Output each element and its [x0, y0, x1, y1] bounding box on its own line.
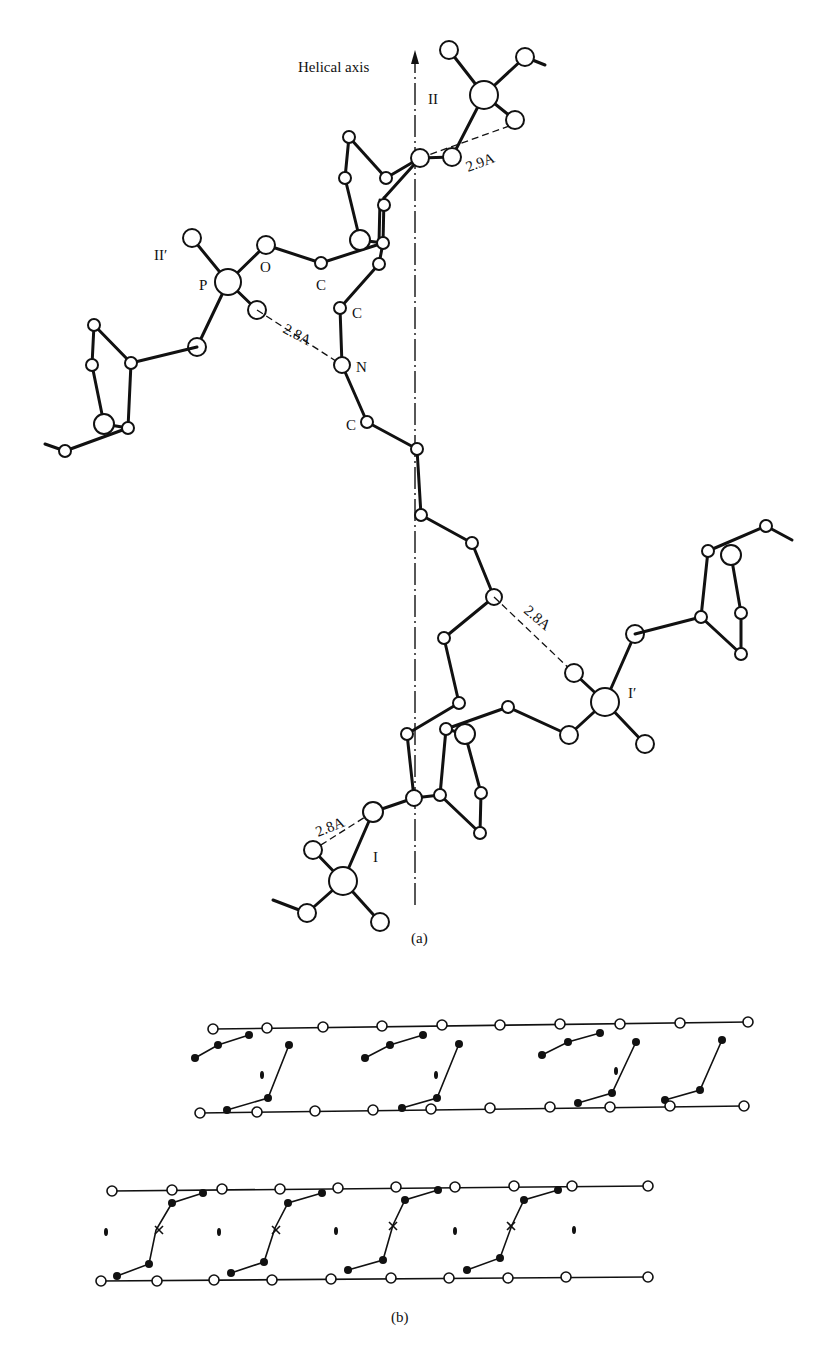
label-I: I — [373, 849, 378, 865]
phosphate-group-I-prime: I′ 2.8A — [446, 597, 654, 753]
caption-a: (a) — [411, 930, 428, 947]
lower-unit-2 — [231, 1193, 322, 1273]
phosphate-group-II: 2.9A — [420, 41, 545, 175]
panel-b-upper — [191, 1017, 753, 1118]
distance-label-upper-left: 2.8A — [281, 321, 315, 349]
unit-1 — [195, 1035, 289, 1110]
panel-b-lower: (b) — [96, 1181, 653, 1326]
label-II-prime: II′ — [154, 247, 167, 263]
panel-a: Helical axis II 2.9A — [45, 41, 792, 947]
upper-sugar-ring — [321, 131, 429, 264]
label-P: P — [199, 277, 207, 293]
phosphate-group-I: I 2.8A — [273, 802, 389, 931]
lower-unit-1 — [117, 1193, 203, 1276]
label-C1: C — [316, 277, 326, 293]
label-N: N — [356, 359, 367, 375]
caption-b: (b) — [391, 1309, 409, 1326]
backbone-chain: C N C 2.8A — [257, 258, 502, 734]
distance-label-top: 2.9A — [464, 150, 497, 175]
label-O: O — [260, 259, 271, 275]
right-sugar-ring — [635, 520, 792, 660]
unit-2 — [365, 1035, 459, 1108]
axis-arrow-icon — [411, 50, 419, 64]
unit-4 — [665, 1040, 722, 1100]
label-II: II — [428, 91, 438, 107]
helical-axis-label: Helical axis — [298, 59, 369, 75]
lower-unit-4 — [467, 1190, 558, 1270]
distance-label-bottom-left: 2.8A — [313, 814, 347, 840]
left-sugar-ring — [45, 319, 197, 457]
label-I-prime: I′ — [628, 685, 636, 701]
unit-3 — [542, 1033, 636, 1103]
lower-sugar-ring — [373, 723, 487, 839]
molecular-structure-figure: Helical axis II 2.9A — [0, 0, 829, 1369]
lower-unit-3 — [348, 1190, 438, 1270]
label-C2: C — [352, 305, 362, 321]
distance-label-middle-right: 2.8A — [521, 602, 554, 633]
label-C3: C — [346, 417, 356, 433]
